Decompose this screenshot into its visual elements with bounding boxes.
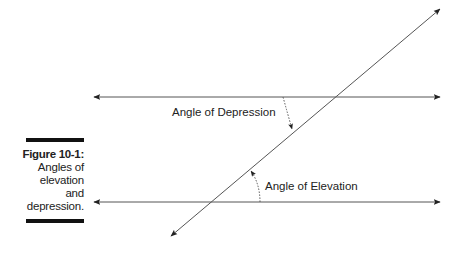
elevation-angle-arc [251,171,260,202]
angles-diagram: Angle of Depression Angle of Elevation [0,0,468,258]
angle-of-elevation-label: Angle of Elevation [265,180,358,192]
angle-of-depression-label: Angle of Depression [172,106,276,118]
depression-angle-arc [283,97,292,129]
